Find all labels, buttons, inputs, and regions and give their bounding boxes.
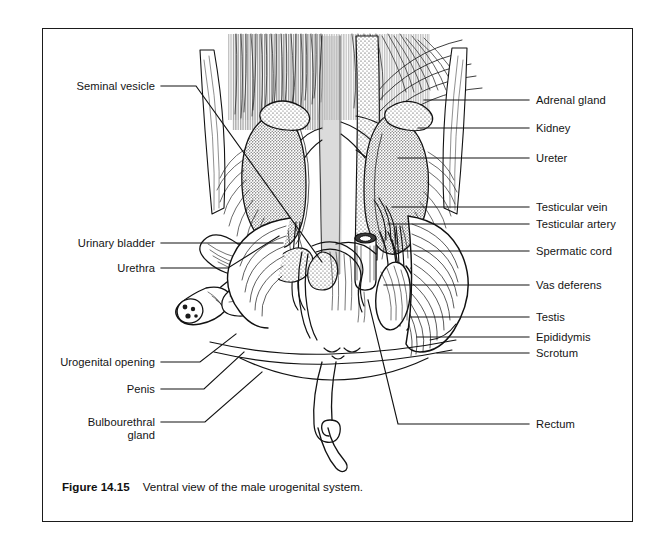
label-penis: Penis <box>0 383 155 396</box>
label-ureter: Ureter <box>536 152 567 165</box>
label-bulbourethral-gland-line1: Bulbourethral <box>0 416 155 429</box>
figure-caption: Figure 14.15Ventral view of the male uro… <box>62 480 363 493</box>
figure-number: Figure 14.15 <box>62 480 130 493</box>
label-spermatic-cord: Spermatic cord <box>536 245 612 258</box>
label-bulbourethral-gland-line2: gland <box>0 429 155 442</box>
leader-seminal-vesicle <box>161 86 322 262</box>
label-scrotum: Scrotum <box>536 347 578 360</box>
label-testis: Testis <box>536 311 565 324</box>
label-testicular-vein: Testicular vein <box>536 201 608 214</box>
label-adrenal-gland: Adrenal gland <box>536 94 606 107</box>
leader-penis <box>161 352 244 389</box>
leader-urogenital-opening <box>161 334 236 362</box>
figure-page: Seminal vesicle Urinary bladder Urethra … <box>0 0 670 544</box>
leader-urethra <box>161 236 279 268</box>
figure-caption-text: Ventral view of the male urogenital syst… <box>143 480 363 493</box>
leader-bulbourethral <box>161 372 262 422</box>
label-rectum: Rectum <box>536 418 575 431</box>
label-seminal-vesicle: Seminal vesicle <box>0 80 155 93</box>
label-urethra: Urethra <box>0 262 155 275</box>
label-testicular-artery: Testicular artery <box>536 218 616 231</box>
label-urinary-bladder: Urinary bladder <box>0 237 155 250</box>
label-epididymis: Epididymis <box>536 331 591 344</box>
leader-rectum <box>368 300 529 424</box>
label-urogenital-opening: Urogenital opening <box>0 356 155 369</box>
label-vas-deferens: Vas deferens <box>536 279 602 292</box>
label-kidney: Kidney <box>536 122 571 135</box>
